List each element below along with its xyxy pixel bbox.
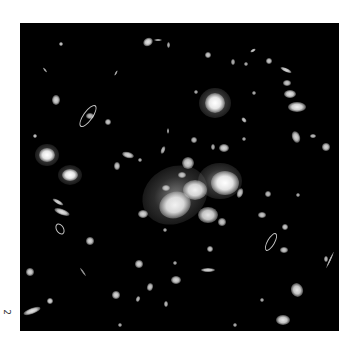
galaxy (260, 298, 264, 302)
galaxy (160, 146, 166, 155)
galaxy (290, 130, 302, 144)
galaxy (194, 90, 198, 94)
galaxy (114, 162, 120, 170)
galaxy (289, 281, 305, 298)
galaxy (118, 323, 122, 327)
galaxy (138, 158, 142, 162)
galaxy (162, 185, 170, 191)
galaxy (23, 305, 42, 317)
galaxy (233, 323, 237, 327)
galaxy (79, 267, 86, 276)
galaxy (265, 191, 271, 197)
galaxy (183, 180, 207, 200)
galaxy (284, 90, 296, 98)
galaxy (62, 169, 78, 181)
galaxy (244, 62, 248, 66)
panel-label: 2 (1, 306, 13, 318)
galaxy (282, 224, 288, 230)
galaxy (258, 212, 266, 218)
galaxy (198, 207, 218, 223)
galaxy (164, 301, 168, 307)
galaxy (252, 91, 256, 95)
galaxy (276, 315, 290, 325)
galaxy (231, 59, 235, 65)
galaxy (171, 276, 181, 284)
galaxy (112, 291, 120, 299)
galaxy (211, 144, 215, 150)
galaxy (205, 52, 211, 58)
galaxy (52, 95, 60, 105)
galaxy (266, 58, 272, 64)
galaxy (207, 246, 213, 252)
galaxy (173, 261, 177, 265)
galaxy (39, 148, 55, 162)
galaxy (178, 172, 186, 178)
galaxy (105, 119, 111, 125)
galaxy (146, 282, 154, 291)
galaxy (167, 42, 170, 48)
galaxy (59, 42, 63, 46)
galaxy (167, 128, 169, 134)
galaxy (280, 247, 288, 253)
galaxy (121, 151, 134, 160)
galaxy (241, 116, 248, 123)
galaxy (201, 268, 215, 272)
galaxy (191, 137, 197, 143)
galaxy (288, 102, 306, 112)
galaxy (26, 268, 34, 276)
galaxy (142, 36, 155, 48)
galaxy (211, 171, 239, 195)
galaxy (219, 144, 229, 152)
galaxy (53, 206, 70, 217)
galaxy (47, 298, 53, 304)
galaxy (205, 93, 225, 113)
galaxy (280, 66, 293, 75)
galaxy (250, 47, 257, 53)
lensed-arc (263, 231, 280, 252)
galaxy (138, 210, 148, 218)
galaxy (163, 228, 167, 232)
lensed-arc (76, 102, 99, 129)
galaxy (218, 218, 226, 226)
galaxy (33, 134, 37, 138)
galaxy (242, 137, 246, 141)
galaxy (283, 80, 291, 86)
galaxy (322, 143, 330, 151)
galaxy (154, 39, 162, 41)
galaxy (86, 237, 94, 245)
galaxy (296, 193, 300, 197)
galaxy (310, 134, 316, 138)
galaxy (182, 157, 194, 169)
galaxy (42, 67, 47, 73)
galaxy (135, 260, 143, 268)
galaxy (114, 70, 119, 76)
galaxy (52, 197, 64, 206)
galaxy-cluster-image (20, 23, 339, 331)
galaxy (135, 295, 141, 302)
lensed-arc (54, 222, 67, 236)
